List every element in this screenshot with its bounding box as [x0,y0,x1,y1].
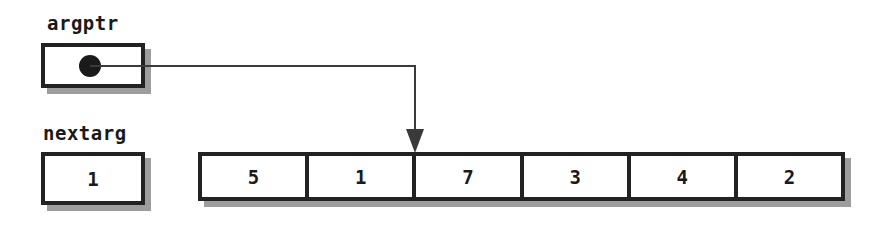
array-cell[interactable]: 4 [631,156,738,197]
array-cell[interactable]: 3 [524,156,631,197]
down-arrow-icon [406,129,424,153]
nextarg-box[interactable]: 1 [41,152,145,205]
filled-circle-pointer-icon [79,55,101,77]
array-cell-value: 3 [524,167,627,186]
argptr-label: argptr [47,14,119,33]
array-cell-value: 5 [202,167,305,186]
array-cell-value: 4 [631,167,734,186]
array-cell[interactable]: 7 [416,156,523,197]
argument-array: 5 1 7 3 4 2 [198,152,845,201]
array-cell-value: 2 [738,167,841,186]
array-cell[interactable]: 5 [202,156,309,197]
pointer-array-diagram: argptr nextarg 1 5 1 7 3 4 2 [0,0,890,228]
nextarg-label: nextarg [43,124,127,143]
array-cell-value: 7 [416,167,519,186]
array-cell-value: 1 [309,167,412,186]
nextarg-box-value: 1 [45,169,141,188]
array-cell[interactable]: 2 [738,156,841,197]
array-cell[interactable]: 1 [309,156,416,197]
